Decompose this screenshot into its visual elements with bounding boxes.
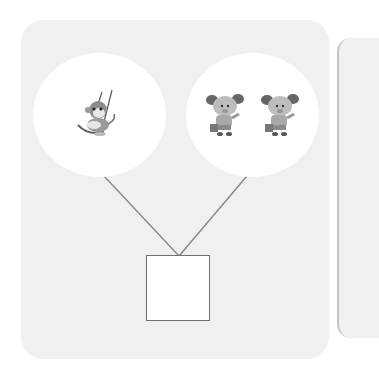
- next-panel-edge: [337, 38, 379, 338]
- answer-box[interactable]: [146, 255, 210, 321]
- monkey-icon: [72, 88, 122, 142]
- mouse-icon: [205, 92, 245, 138]
- mouse-icon: [260, 92, 300, 138]
